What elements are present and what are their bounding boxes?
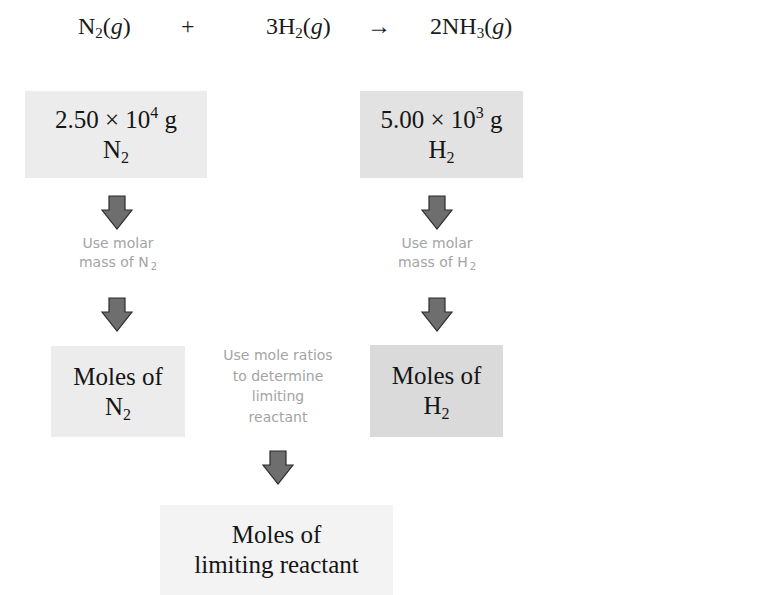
mass-h2-species: H2 [428, 135, 454, 165]
mass-h2-box: 5.00 × 103 g H2 [360, 91, 523, 178]
equation-plus-sign: + [181, 12, 195, 40]
moles-n2-box: Moles of N2 [51, 346, 185, 437]
down-arrow-icon [421, 195, 453, 231]
down-arrow-icon [421, 297, 453, 333]
mass-n2-value: 2.50 × 104 g [55, 105, 177, 135]
mass-n2-species: N2 [103, 135, 129, 165]
mass-n2-box: 2.50 × 104 g N2 [25, 91, 207, 178]
molar-mass-h2-label: Use molar mass of H2 [377, 234, 497, 272]
molar-mass-n2-label: Use molar mass of N2 [58, 234, 178, 272]
equation-yields-arrow: → [367, 12, 391, 40]
moles-h2-box: Moles of H2 [370, 345, 503, 437]
equation-reactant-h2: 3H2(g) [266, 12, 331, 40]
mole-ratios-label: Use mole ratios to determine limiting re… [203, 345, 353, 427]
down-arrow-icon [101, 297, 133, 333]
down-arrow-icon [262, 450, 294, 486]
equation-product-nh3: 2NH3(g) [430, 12, 512, 40]
mass-h2-value: 5.00 × 103 g [380, 105, 502, 135]
down-arrow-icon [101, 195, 133, 231]
moles-limiting-reactant-box: Moles of limiting reactant [160, 505, 393, 595]
equation-reactant-n2: N2(g) [78, 12, 131, 40]
